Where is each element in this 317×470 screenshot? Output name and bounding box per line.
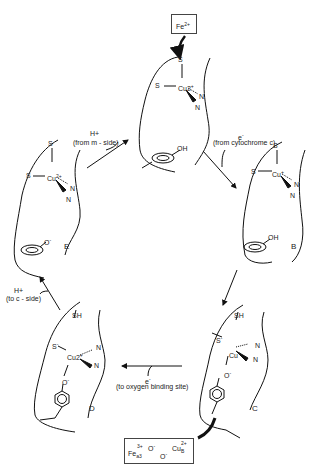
state-e-cu: Cu2+ [47, 172, 62, 183]
oxygen-1: O- [148, 442, 155, 453]
a-to-b-note: (from cytochrome c) [213, 139, 275, 147]
cu-b-charge: 2+ [181, 439, 187, 447]
state-c-label: C [252, 405, 258, 413]
state-e-n1: N [70, 185, 75, 193]
fe-a3-label: Fea3 [128, 450, 142, 460]
ferrous-cytochrome-box: Fe2+ [171, 14, 197, 34]
d-to-e-note: (to c - side) [6, 295, 41, 303]
state-b-cu: Cu+ [272, 168, 284, 179]
state-b-n2: N [290, 192, 295, 200]
state-c-sh: SH [234, 312, 244, 320]
state-a-s1: S [178, 56, 183, 64]
state-e-phenolate: O- [44, 236, 51, 247]
state-e-label: E [64, 243, 69, 251]
d-to-e-species: H+ [14, 287, 23, 295]
state-c-n2: N [253, 356, 258, 364]
state-d-o: O- [62, 376, 69, 387]
state-b-n1: N [294, 181, 299, 189]
e-to-a-note: (from m - side) [73, 139, 119, 147]
fe-c-label: Fe2+ [176, 20, 190, 31]
state-e-s2: S [26, 172, 31, 180]
state-b-oh: OH [268, 234, 279, 242]
state-d-s: S- [52, 340, 58, 351]
oxygen-binding-site-box: Fea3 3+ O- O- CuB 2+ [124, 438, 194, 464]
e-to-a-species: H+ [90, 130, 99, 138]
state-c-n1: N [255, 342, 260, 350]
state-d-label: D [89, 405, 95, 413]
state-b-label: B [291, 243, 296, 251]
state-e-s1: S [48, 140, 53, 148]
state-a-n2: N [195, 104, 200, 112]
state-c-s: S- [216, 334, 222, 345]
state-d-sh: SH [72, 312, 82, 320]
state-c-cu: Cu+ [229, 349, 241, 360]
state-d-n1: N [96, 344, 101, 352]
c-to-d-note: (to oxygen binding site) [116, 383, 188, 391]
state-b-s2: S [251, 168, 256, 176]
oxygen-2: O- [160, 450, 167, 461]
state-e-n2: N [66, 196, 71, 204]
state-d-cu: Cu2+ [67, 351, 83, 362]
state-a-n1: N [199, 93, 204, 101]
state-d-n2: N [94, 362, 99, 370]
fe-a3-charge: 3+ [137, 442, 143, 450]
state-c-o: O- [224, 369, 231, 380]
state-a-s2: S [155, 82, 160, 90]
state-a-oh: OH [177, 145, 188, 153]
state-a-cu: Cu2+ [178, 82, 194, 93]
